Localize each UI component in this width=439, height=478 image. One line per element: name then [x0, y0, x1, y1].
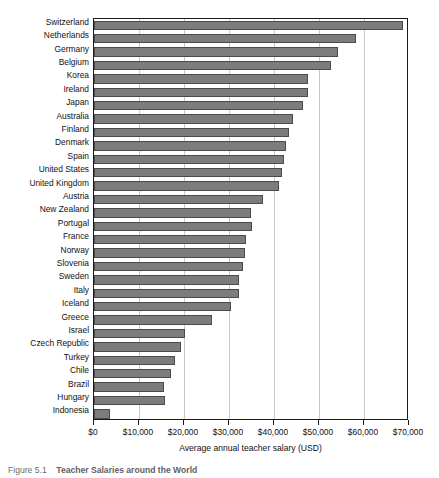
y-axis-label: Brazil: [0, 378, 89, 392]
bar: [94, 342, 181, 351]
bar-row: [94, 381, 407, 395]
bar: [94, 248, 245, 257]
bar-row: [94, 193, 407, 207]
bar: [94, 275, 239, 284]
x-axis-tick-label: $10,000: [123, 427, 153, 437]
bar-row: [94, 314, 407, 328]
y-axis-label: Finland: [0, 123, 89, 137]
y-axis-label: Denmark: [0, 136, 89, 150]
y-axis-label: Indonesia: [0, 404, 89, 418]
y-axis-label: United Kingdom: [0, 177, 89, 191]
bar: [94, 21, 403, 30]
bar-row: [94, 180, 407, 194]
x-axis-tick-label: $20,000: [168, 427, 198, 437]
bar: [94, 141, 286, 150]
x-axis-tick: [408, 420, 409, 425]
figure-caption: Figure 5.1 Teacher Salaries around the W…: [8, 465, 439, 475]
y-axis-label: Spain: [0, 150, 89, 164]
bar: [94, 88, 308, 97]
bar: [94, 289, 239, 298]
bar: [94, 356, 175, 365]
plot-area: [93, 18, 408, 420]
bar: [94, 101, 303, 110]
figure-caption-title: Teacher Salaries around the World: [56, 465, 197, 475]
x-axis-tick-label: $30,000: [213, 427, 243, 437]
y-axis-label: Norway: [0, 244, 89, 258]
bar-row: [94, 166, 407, 180]
y-axis-label: Ireland: [0, 83, 89, 97]
bar-row: [94, 327, 407, 341]
y-axis-label: Slovenia: [0, 257, 89, 271]
bar-row: [94, 260, 407, 274]
x-axis-tick: [228, 420, 229, 425]
y-axis-label: Korea: [0, 69, 89, 83]
y-axis-label: Hungary: [0, 391, 89, 405]
y-axis-label: Austria: [0, 190, 89, 204]
bar-row: [94, 153, 407, 167]
bar: [94, 382, 164, 391]
bar: [94, 195, 263, 204]
bar-row: [94, 408, 407, 420]
y-axis-label: Turkey: [0, 351, 89, 365]
y-axis-label: Belgium: [0, 56, 89, 70]
y-axis-label: France: [0, 230, 89, 244]
y-axis-label: Czech Republic: [0, 337, 89, 351]
bar: [94, 222, 252, 231]
x-axis-tick: [318, 420, 319, 425]
bar: [94, 61, 331, 70]
bar: [94, 329, 185, 338]
y-axis-label: Sweden: [0, 270, 89, 284]
y-axis-label: Chile: [0, 364, 89, 378]
bar: [94, 34, 356, 43]
x-axis-tick: [363, 420, 364, 425]
x-axis-tick-label: $60,000: [348, 427, 378, 437]
figure-container: SwitzerlandNetherlandsGermanyBelgiumKore…: [0, 0, 439, 478]
y-axis-label: Japan: [0, 96, 89, 110]
x-axis-title: Average annual teacher salary (USD): [93, 443, 408, 453]
y-axis-label: Italy: [0, 284, 89, 298]
x-axis-tick: [183, 420, 184, 425]
bar-row: [94, 274, 407, 288]
bar-row: [94, 300, 407, 314]
y-axis-category-labels: SwitzerlandNetherlandsGermanyBelgiumKore…: [0, 18, 89, 420]
y-axis-label: Australia: [0, 110, 89, 124]
y-axis-label: New Zealand: [0, 203, 89, 217]
bar: [94, 235, 246, 244]
x-axis-tick-labels: $0$10,000$20,000$30,000$40,000$50,000$60…: [0, 427, 439, 441]
bar-row: [94, 19, 407, 33]
bar: [94, 262, 243, 271]
x-axis-tick: [273, 420, 274, 425]
bar-row: [94, 287, 407, 301]
bar-row: [94, 86, 407, 100]
bar-row: [94, 220, 407, 234]
x-axis-tick-label: $50,000: [303, 427, 333, 437]
bar-row: [94, 341, 407, 355]
bar: [94, 155, 284, 164]
bar-row: [94, 140, 407, 154]
x-axis-ticks: [93, 420, 408, 426]
y-axis-label: Iceland: [0, 297, 89, 311]
bar: [94, 396, 165, 405]
bar: [94, 181, 279, 190]
x-axis-tick-label: $40,000: [258, 427, 288, 437]
figure-caption-number: Figure 5.1: [8, 465, 47, 475]
bar-row: [94, 73, 407, 87]
bar-row: [94, 59, 407, 73]
y-axis-label: Israel: [0, 324, 89, 338]
x-axis-tick-label: $0: [88, 427, 97, 437]
bar-row: [94, 247, 407, 261]
bar: [94, 302, 231, 311]
bar: [94, 114, 293, 123]
bar-row: [94, 233, 407, 247]
bar-series: [94, 19, 407, 419]
bar: [94, 47, 338, 56]
bar-row: [94, 367, 407, 381]
bar-row: [94, 207, 407, 221]
bar: [94, 128, 289, 137]
x-axis-tick: [93, 420, 94, 425]
y-axis-label: United States: [0, 163, 89, 177]
bar-row: [94, 354, 407, 368]
y-axis-label: Greece: [0, 311, 89, 325]
y-axis-label: Germany: [0, 43, 89, 57]
bar: [94, 409, 110, 418]
